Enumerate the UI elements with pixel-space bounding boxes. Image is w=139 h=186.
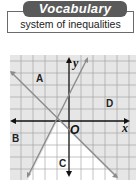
region-label-d: D bbox=[106, 98, 113, 109]
axis-y-label: y bbox=[71, 56, 79, 70]
region-label-a: A bbox=[36, 73, 43, 84]
axis-x-label: x bbox=[121, 121, 128, 135]
region-label-c: C bbox=[59, 158, 66, 169]
inequality-graph: A B C D x y O bbox=[0, 50, 139, 186]
region-label-b: B bbox=[12, 133, 19, 144]
vocabulary-term: system of inequalities bbox=[7, 15, 134, 33]
origin-label: O bbox=[70, 123, 80, 137]
